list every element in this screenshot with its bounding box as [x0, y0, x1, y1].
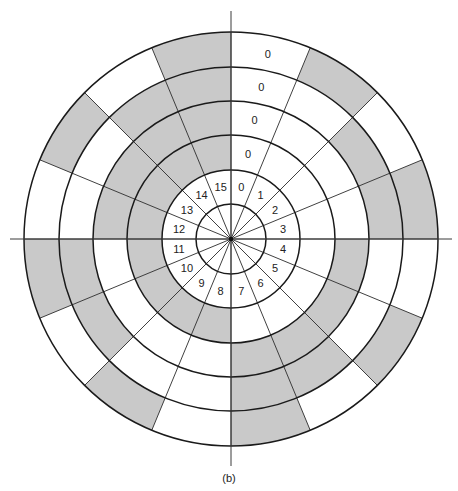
sector-number-label: 5	[272, 262, 278, 274]
sector-number-label: 7	[238, 285, 244, 297]
sector-number-label: 4	[280, 243, 286, 255]
shaded-segment	[297, 48, 378, 118]
shaded-segment	[353, 305, 423, 386]
sector-number-label: 14	[195, 189, 207, 201]
sector-number-label: 11	[173, 243, 184, 255]
sector-number-label: 12	[173, 223, 185, 235]
center-hub	[229, 237, 233, 241]
bit-value-label: 0	[245, 148, 251, 160]
figure-caption: (b)	[0, 472, 458, 484]
bit-value-label: 0	[252, 114, 258, 126]
sector-number-label: 15	[215, 181, 227, 193]
sector-number-label: 6	[257, 277, 263, 289]
bit-value-label: 0	[265, 48, 271, 60]
sector-number-label: 9	[198, 277, 204, 289]
sector-number-label: 8	[218, 285, 224, 297]
sector-number-label: 3	[280, 223, 286, 235]
shaded-segment	[85, 361, 166, 431]
sector-number-label: 10	[181, 262, 193, 274]
sector-number-label: 13	[181, 204, 193, 216]
sector-number-label: 1	[257, 189, 263, 201]
shaded-segment	[40, 93, 110, 174]
bit-value-label: 0	[258, 81, 264, 93]
sector-number-label: 0	[238, 181, 244, 193]
sector-number-label: 2	[272, 204, 278, 216]
encoder-disc: 01234567891011121314150000	[0, 0, 458, 491]
